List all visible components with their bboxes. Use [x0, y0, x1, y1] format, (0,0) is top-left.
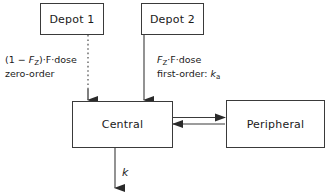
diagram-canvas: Depot 1 Depot 2 Central Peripheral (1 − … — [0, 0, 329, 194]
edge-label-first-order-line1: FZ·F·dose — [157, 54, 201, 65]
edge-label-zero-order-line2: zero-order — [5, 68, 77, 81]
node-peripheral[interactable]: Peripheral — [226, 100, 325, 148]
node-depot-2[interactable]: Depot 2 — [141, 3, 204, 35]
node-depot-1-label: Depot 1 — [49, 13, 94, 26]
node-peripheral-label: Peripheral — [247, 118, 305, 131]
edge-central-peripheral-distribution — [173, 118, 225, 125]
node-central[interactable]: Central — [72, 101, 173, 148]
node-depot-1[interactable]: Depot 1 — [40, 3, 104, 35]
edge-label-first-order: FZ·F·dose first-order: ka — [157, 54, 220, 81]
edge-label-zero-order-line1: (1 − FZ)·F·dose — [5, 54, 77, 65]
edge-label-first-order-line2: first-order: ka — [157, 68, 220, 82]
node-depot-2-label: Depot 2 — [150, 13, 195, 26]
edge-label-zero-order: (1 − FZ)·F·dose zero-order — [5, 54, 77, 80]
node-central-label: Central — [102, 118, 143, 131]
edge-label-elimination: k — [122, 166, 128, 179]
